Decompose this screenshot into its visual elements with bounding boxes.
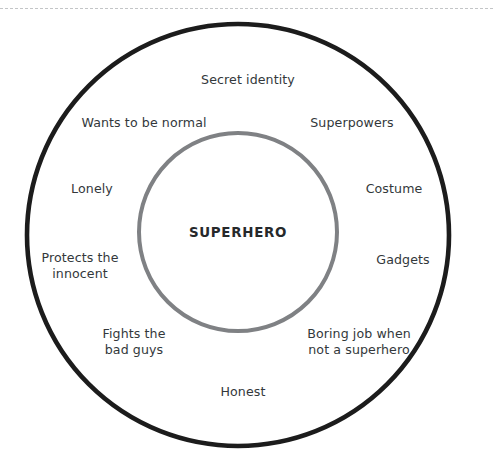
label-lonely: Lonely: [71, 181, 113, 197]
label-honest: Honest: [220, 384, 265, 400]
label-superpowers: Superpowers: [310, 115, 393, 131]
diagram-canvas: SUPERHERO Secret identity Wants to be no…: [0, 0, 493, 471]
label-boring-job: Boring job when not a superhero: [307, 326, 411, 357]
label-layer: SUPERHERO Secret identity Wants to be no…: [0, 0, 493, 471]
center-label-superhero: SUPERHERO: [189, 225, 287, 241]
label-secret-identity: Secret identity: [201, 72, 295, 88]
label-fights-the-bad-guys: Fights the bad guys: [103, 326, 166, 357]
label-gadgets: Gadgets: [376, 252, 429, 268]
label-protects-the-innocent: Protects the innocent: [42, 250, 119, 281]
label-wants-to-be-normal: Wants to be normal: [81, 115, 206, 131]
label-costume: Costume: [366, 181, 423, 197]
